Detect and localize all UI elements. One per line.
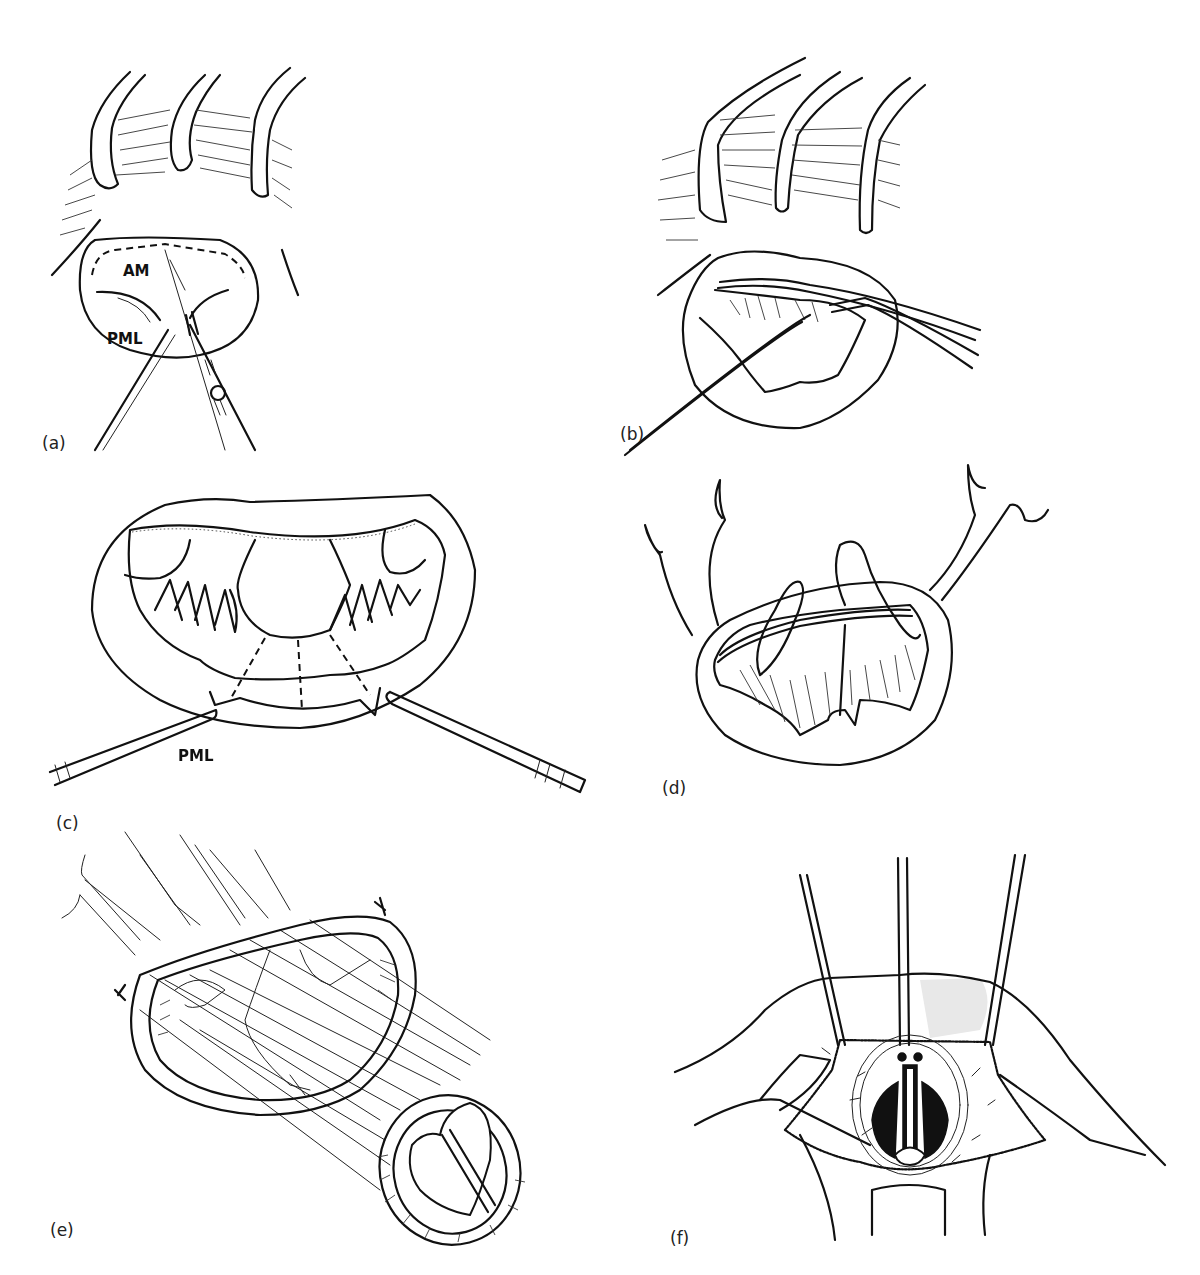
panel-a: AM PML (a): [0, 0, 600, 460]
panel-f: (f): [600, 810, 1200, 1275]
implanted-valve-illustration: [600, 810, 1200, 1275]
tissue-hatching: [60, 110, 292, 235]
panel-c: (c): [0, 460, 600, 820]
prosthesis-seating-illustration: [0, 810, 600, 1275]
panel-d: PML (d): [600, 460, 1200, 820]
tissue-hatching: [658, 115, 900, 240]
mitral-incision-illustration: [0, 0, 600, 460]
panel-b: (b): [600, 0, 1200, 460]
panel-label-e: (e): [50, 1220, 74, 1240]
panel-label-d: (d): [662, 778, 686, 798]
chordae-division-illustration: [0, 460, 600, 820]
leaflet-suture-illustration: [600, 460, 1200, 820]
annotation-am: AM: [123, 262, 150, 280]
chordae: [155, 580, 420, 632]
panel-label-b: (b): [620, 424, 644, 444]
annotation-pml: PML: [178, 747, 213, 765]
panel-label-f: (f): [670, 1228, 689, 1248]
annotation-pml: PML: [107, 330, 142, 348]
panel-e: (e): [0, 810, 600, 1275]
panel-label-a: (a): [42, 433, 66, 453]
leaflet-excision-illustration: [600, 0, 1200, 460]
